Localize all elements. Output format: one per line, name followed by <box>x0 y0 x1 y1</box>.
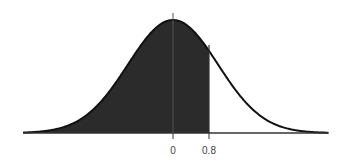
x-tick-label-1: 0.8 <box>202 145 216 156</box>
normal-distribution-chart: 0 0.8 <box>0 0 345 163</box>
x-tick-label-0: 0 <box>170 145 176 156</box>
shaded-area-left-of-cutoff <box>23 20 209 133</box>
